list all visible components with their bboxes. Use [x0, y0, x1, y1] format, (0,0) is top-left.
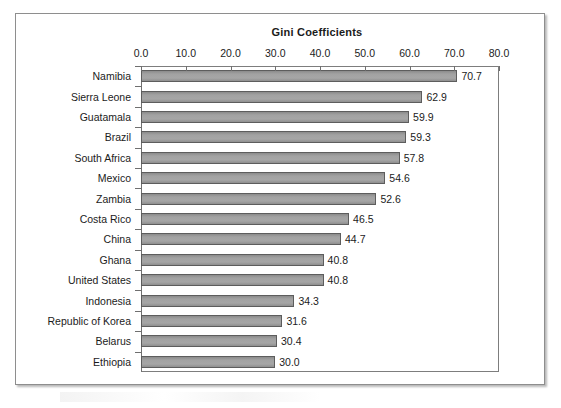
- bar: [141, 91, 422, 103]
- bar: [141, 233, 341, 245]
- y-axis-tick-mark: [135, 270, 141, 271]
- bar: [141, 254, 324, 266]
- bar-row: South Africa57.8: [16, 148, 544, 168]
- y-axis-tick-mark: [135, 86, 141, 87]
- bar-row: Brazil59.3: [16, 127, 544, 147]
- bar-value-label: 57.8: [400, 152, 424, 164]
- x-axis-tick-label: 40.0: [310, 47, 330, 59]
- bar: [141, 335, 277, 347]
- x-axis-tick-mark: [275, 66, 276, 71]
- bar: [141, 213, 349, 225]
- bar-value-label: 54.6: [385, 172, 409, 184]
- bar-row: Costa Rico46.5: [16, 209, 544, 229]
- bar: [141, 315, 282, 327]
- y-axis-tick-mark: [135, 188, 141, 189]
- x-axis-tick-labels: 0.010.020.030.040.050.060.070.080.0: [141, 47, 499, 63]
- x-axis-tick-mark: [186, 66, 187, 71]
- category-label: Zambia: [96, 193, 131, 205]
- bar-row: Namibia70.7: [16, 66, 544, 86]
- x-axis-tick-mark: [410, 66, 411, 71]
- bar: [141, 193, 376, 205]
- category-label: Costa Rico: [80, 213, 131, 225]
- bar-value-label: 30.4: [277, 335, 301, 347]
- bar-value-label: 40.8: [324, 274, 348, 286]
- y-axis-tick-mark: [135, 352, 141, 353]
- bar: [141, 172, 385, 184]
- bar-row: United States40.8: [16, 270, 544, 290]
- bar-row: Republic of Korea31.6: [16, 311, 544, 331]
- category-label: United States: [68, 274, 131, 286]
- y-axis-tick-mark: [135, 229, 141, 230]
- x-axis-tick-mark: [365, 66, 366, 71]
- category-label: Ghana: [99, 254, 131, 266]
- y-axis-tick-mark: [135, 148, 141, 149]
- bar-row: Mexico54.6: [16, 168, 544, 188]
- bar-row: Ethiopia30.0: [16, 352, 544, 372]
- x-axis-tick-label: 50.0: [355, 47, 375, 59]
- category-label: Sierra Leone: [71, 91, 131, 103]
- category-label: Ethiopia: [93, 356, 131, 368]
- category-label: China: [104, 233, 131, 245]
- bar-row: China44.7: [16, 229, 544, 249]
- category-label: Mexico: [98, 172, 131, 184]
- x-axis-tick-label: 60.0: [399, 47, 419, 59]
- bar-value-label: 30.0: [275, 356, 299, 368]
- category-label: Namibia: [92, 70, 131, 82]
- bar-row: Zambia52.6: [16, 188, 544, 208]
- category-label: Brazil: [105, 131, 131, 143]
- bar-row: Ghana40.8: [16, 250, 544, 270]
- x-axis-tick-mark: [499, 66, 500, 71]
- chart-canvas: Gini Coefficients 0.010.020.030.040.050.…: [16, 14, 544, 384]
- bar-value-label: 70.7: [457, 70, 481, 82]
- x-axis-tick-label: 30.0: [265, 47, 285, 59]
- bar-value-label: 44.7: [341, 233, 365, 245]
- bar-row: Belarus30.4: [16, 331, 544, 351]
- x-axis-tick-mark: [454, 66, 455, 71]
- y-axis-tick-mark: [135, 107, 141, 108]
- y-axis-tick-mark: [135, 168, 141, 169]
- category-label: Guatamala: [80, 111, 131, 123]
- category-label: Republic of Korea: [48, 315, 131, 327]
- category-label: Indonesia: [85, 295, 131, 307]
- chart-title: Gini Coefficients: [16, 26, 544, 38]
- bar: [141, 152, 400, 164]
- bar: [141, 111, 409, 123]
- bar-value-label: 52.6: [376, 193, 400, 205]
- x-axis-tick-mark: [141, 66, 142, 71]
- category-label: South Africa: [74, 152, 131, 164]
- category-label: Belarus: [95, 335, 131, 347]
- bar-row: Sierra Leone62.9: [16, 86, 544, 106]
- y-axis-tick-mark: [135, 290, 141, 291]
- bar-value-label: 31.6: [282, 315, 306, 327]
- x-axis-tick-label: 20.0: [220, 47, 240, 59]
- bar: [141, 70, 457, 82]
- bar-rows: Namibia70.7Sierra Leone62.9Guatamala59.9…: [16, 66, 544, 372]
- x-axis-tick-label: 10.0: [176, 47, 196, 59]
- bar-row: Guatamala59.9: [16, 107, 544, 127]
- y-axis-tick-mark: [135, 209, 141, 210]
- bar-value-label: 59.3: [406, 131, 430, 143]
- scan-artifact: [60, 392, 320, 402]
- x-axis-tick-mark: [320, 66, 321, 71]
- x-axis-tick-label: 80.0: [489, 47, 509, 59]
- bar: [141, 274, 324, 286]
- bar: [141, 356, 275, 368]
- y-axis-tick-mark: [135, 331, 141, 332]
- bar-value-label: 34.3: [294, 295, 318, 307]
- bar-value-label: 59.9: [409, 111, 433, 123]
- y-axis-tick-mark: [135, 127, 141, 128]
- y-axis-tick-mark: [135, 311, 141, 312]
- y-axis-tick-mark: [135, 250, 141, 251]
- chart-outer-frame: Gini Coefficients 0.010.020.030.040.050.…: [15, 13, 545, 385]
- x-axis-tick-label: 70.0: [444, 47, 464, 59]
- x-axis-tick-mark: [231, 66, 232, 71]
- bar: [141, 295, 294, 307]
- bar-row: Indonesia34.3: [16, 290, 544, 310]
- bar-value-label: 40.8: [324, 254, 348, 266]
- bar-value-label: 62.9: [422, 91, 446, 103]
- bar-value-label: 46.5: [349, 213, 373, 225]
- bar: [141, 131, 406, 143]
- x-axis-tick-label: 0.0: [134, 47, 149, 59]
